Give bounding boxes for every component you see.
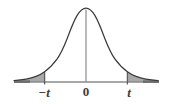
axis-label-zero: 0 — [83, 85, 90, 98]
axis-label-positive-t: t — [127, 86, 131, 99]
axis-label-negative-t: −t — [38, 86, 50, 99]
t-distribution-figure: −t 0 t — [0, 0, 171, 104]
